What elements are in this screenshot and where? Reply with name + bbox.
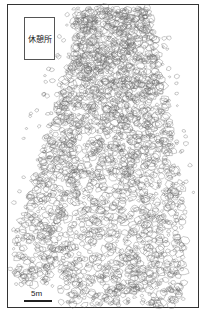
rest-area-label: 休憩所	[28, 33, 52, 44]
scale-bar	[24, 300, 52, 302]
scale-label: 5m	[31, 289, 42, 298]
rest-area-label-box: 休憩所	[24, 17, 55, 60]
